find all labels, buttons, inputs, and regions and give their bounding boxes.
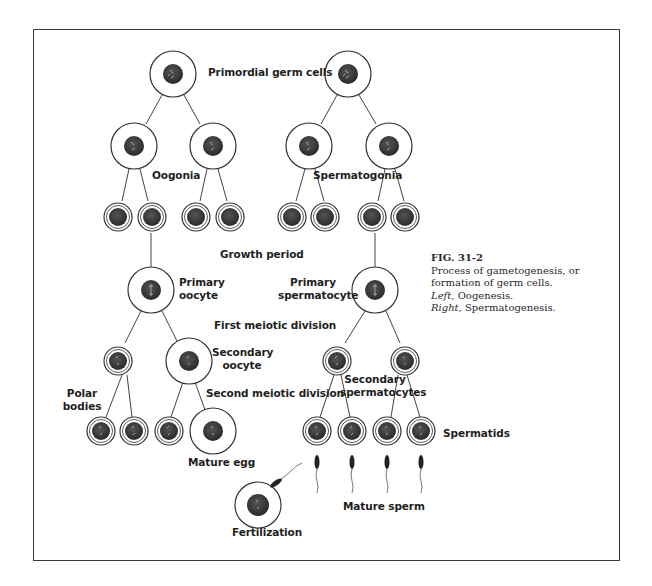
caption-right-label: Right,	[431, 302, 462, 313]
spermatogonium-cell	[366, 123, 412, 169]
label-primary-oocyte: Primary oocyte	[179, 276, 225, 302]
spermatogonium-cell	[286, 123, 332, 169]
figure-number: FIG. 31-2	[431, 252, 580, 265]
sperm-icon	[315, 455, 320, 493]
caption-left-label: Left,	[431, 290, 454, 301]
label-secondary-spermatocytes-line2: spermatocytes	[340, 386, 410, 399]
label-polar-bodies: Polar bodies	[62, 387, 102, 413]
label-spermatogonia: Spermatogonia	[313, 169, 402, 182]
label-spermatids: Spermatids	[443, 427, 510, 440]
label-polar-bodies-line2: bodies	[62, 400, 102, 413]
oogonium-cell	[190, 123, 236, 169]
sperm-icon	[419, 455, 424, 493]
sperm-icon	[385, 455, 390, 493]
fertilized-egg-cell	[235, 482, 281, 528]
label-secondary-oocyte: Secondary oocyte	[212, 346, 272, 372]
label-growth-period: Growth period	[220, 248, 304, 261]
oogonium-cell	[111, 123, 157, 169]
figure-caption: FIG. 31-2 Process of gametogenesis, or f…	[431, 252, 580, 315]
label-secondary-spermatocytes: Secondary spermatocytes	[340, 373, 410, 399]
label-secondary-oocyte-line1: Secondary	[212, 346, 272, 359]
label-secondary-spermatocytes-line1: Secondary	[340, 373, 410, 386]
label-primary-spermatocyte-line2: spermatocyte	[278, 289, 348, 302]
label-oogonia: Oogonia	[152, 169, 200, 182]
secondary-oocyte-cell	[166, 338, 212, 384]
label-mature-egg: Mature egg	[188, 456, 255, 469]
caption-left-value: Oogenesis.	[458, 290, 514, 301]
mature-egg-cell	[190, 408, 236, 454]
label-secondary-oocyte-line2: oocyte	[212, 359, 272, 372]
label-polar-bodies-line1: Polar	[62, 387, 102, 400]
sperm-icon	[350, 455, 355, 493]
label-mature-sperm: Mature sperm	[343, 500, 425, 513]
label-primary-spermatocyte: Primary spermatocyte	[278, 276, 348, 302]
label-fertilization: Fertilization	[232, 526, 302, 539]
label-second-meiotic-division: Second meiotic division	[206, 387, 344, 400]
label-primary-spermatocyte-line1: Primary	[278, 276, 348, 289]
primordial-germ-cell-left	[150, 51, 196, 97]
label-first-meiotic-division: First meiotic division	[214, 319, 336, 332]
caption-line-1: Process of gametogenesis, or	[431, 265, 580, 278]
mature-sperm-cells	[269, 455, 424, 493]
caption-left-line: Left, Oogenesis.	[431, 290, 580, 303]
caption-right-line: Right, Spermatogenesis.	[431, 302, 580, 315]
caption-right-value: Spermatogenesis.	[465, 302, 556, 313]
label-primary-oocyte-line1: Primary	[179, 276, 225, 289]
fertilizing-sperm-icon	[269, 463, 302, 489]
caption-line-2: formation of germ cells.	[431, 277, 580, 290]
label-primary-oocyte-line2: oocyte	[179, 289, 225, 302]
label-primordial-germ-cells: Primordial germ cells	[208, 66, 332, 79]
